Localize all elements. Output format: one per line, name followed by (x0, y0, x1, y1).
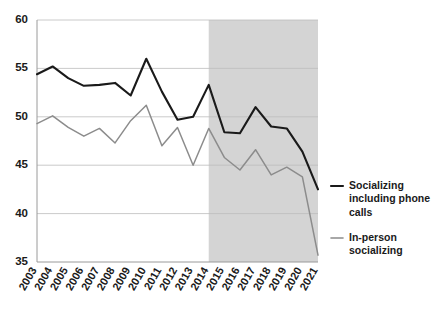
chart-container: 3540455055602003200420052006200720082009… (0, 0, 441, 312)
shaded-region (209, 20, 318, 262)
y-axis-tick-label: 50 (15, 110, 28, 122)
y-axis-tick-label: 55 (15, 61, 28, 73)
legend-label-2: In-person (349, 231, 397, 243)
line-chart: 3540455055602003200420052006200720082009… (0, 0, 441, 312)
y-axis-tick-label: 45 (15, 158, 28, 170)
legend-label-1: calls (349, 206, 373, 218)
legend-label-1: Socializing (349, 179, 404, 191)
y-axis-tick-label: 35 (15, 255, 28, 267)
y-axis-tick-label: 60 (15, 13, 28, 25)
y-axis-tick-label: 40 (15, 207, 28, 219)
legend-label-2: socializing (349, 244, 403, 256)
legend-label-1: including phone (349, 192, 430, 204)
